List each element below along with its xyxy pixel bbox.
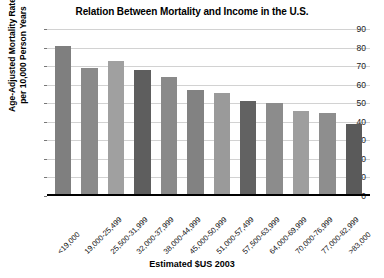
- y-axis-title-line2: per 10,000 Person Years: [18, 6, 29, 104]
- plot-area: 0102030405060708090: [47, 29, 370, 196]
- x-axis-tick-label: <19,000: [56, 230, 82, 256]
- x-axis-title: Estimated $US 2003: [0, 259, 384, 269]
- bar: [240, 101, 256, 196]
- bar-slot: [50, 29, 76, 196]
- bar-slot: [288, 29, 314, 196]
- bar-slot: [209, 29, 235, 196]
- bar: [346, 124, 362, 196]
- bar: [266, 103, 282, 196]
- bar-slot: [76, 29, 102, 196]
- bar-slot: [261, 29, 287, 196]
- bar-slot: [235, 29, 261, 196]
- bar-slot: [314, 29, 340, 196]
- bar-slot: [341, 29, 367, 196]
- bar: [214, 93, 230, 196]
- y-axis-tick-mark: [44, 196, 47, 197]
- bar: [55, 46, 71, 196]
- y-axis-title: Age-Adjusted Mortality Rate per 10,000 P…: [1, 0, 35, 135]
- bar: [134, 70, 150, 196]
- bar: [319, 113, 335, 196]
- bar: [108, 61, 124, 196]
- x-axis-line: [47, 194, 370, 196]
- bar-slot: [129, 29, 155, 196]
- bar: [187, 90, 203, 196]
- bar-slot: [103, 29, 129, 196]
- bar: [81, 68, 97, 196]
- bar-slot: [182, 29, 208, 196]
- x-axis-tick-labels: <19,00019,000-25,49925,500-31,99932,000-…: [47, 198, 370, 256]
- x-axis-tick-label: >83,000: [346, 230, 372, 256]
- chart-title: Relation Between Mortality and Income in…: [0, 6, 384, 17]
- bar: [161, 77, 177, 196]
- bar-slot: [156, 29, 182, 196]
- mortality-income-bar-chart: Relation Between Mortality and Income in…: [0, 0, 384, 278]
- bar: [293, 111, 309, 196]
- bar-series: [47, 29, 370, 196]
